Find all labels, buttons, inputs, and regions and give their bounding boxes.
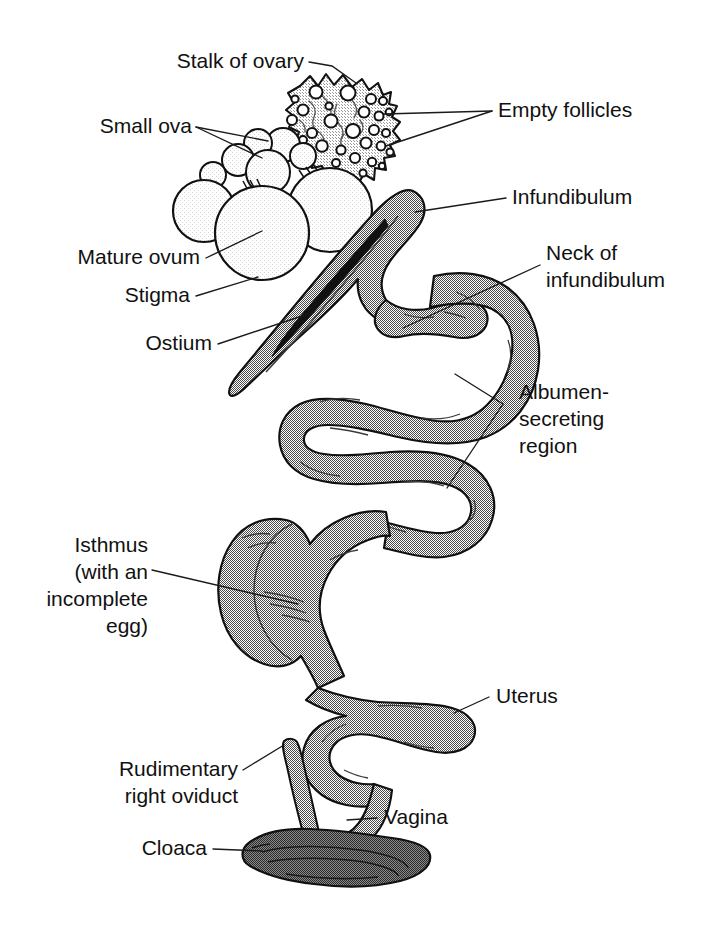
label-albumen-line1: Albumen- [519,380,609,403]
label-isthmus-line4: egg) [106,614,148,637]
anatomical-figure: Stalk of ovary Small ova Empty follicles… [0,0,702,930]
label-isthmus-line3: incomplete [46,587,148,610]
label-infundibulum: Infundibulum [512,185,632,208]
label-rudimentary-line1: Rudimentary [119,757,239,780]
label-albumen-line3: region [519,434,577,457]
label-neck-of-infundibulum-line2: infundibulum [546,268,665,291]
label-vagina: Vagina [384,805,448,828]
small-ovum [290,143,316,169]
label-cloaca: Cloaca [142,836,208,859]
label-albumen-line2: secreting [519,407,604,430]
label-mature-ovum: Mature ovum [77,245,200,268]
label-isthmus-line2: (with an [74,560,148,583]
label-stalk-of-ovary: Stalk of ovary [177,49,305,72]
label-small-ova: Small ova [100,114,193,137]
mature-ovum [215,186,309,280]
label-rudimentary-line2: right oviduct [125,784,238,807]
label-empty-follicles: Empty follicles [498,98,632,121]
label-uterus: Uterus [496,684,558,707]
label-isthmus-line1: Isthmus [74,533,148,556]
label-neck-of-infundibulum-line1: Neck of [546,241,617,264]
label-stigma: Stigma [125,283,191,306]
reproductive-tract-diagram: Stalk of ovary Small ova Empty follicles… [0,0,702,930]
label-ostium: Ostium [145,331,212,354]
